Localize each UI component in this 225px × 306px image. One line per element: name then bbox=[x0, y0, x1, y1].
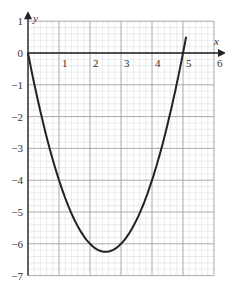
x-tick-label: 4 bbox=[155, 57, 161, 69]
y-tick-labels: 10−1−2−3−4−5−6−7 bbox=[11, 15, 23, 281]
y-tick-label: −1 bbox=[11, 79, 23, 91]
x-tick-label: 2 bbox=[93, 57, 99, 69]
y-tick-label: −6 bbox=[11, 238, 23, 250]
y-tick-label: −5 bbox=[11, 206, 23, 218]
chart: 123456 10−1−2−3−4−5−6−7 x y bbox=[0, 0, 225, 306]
y-tick-label: −2 bbox=[11, 111, 23, 123]
y-tick-label: −4 bbox=[11, 174, 23, 186]
y-tick-label: 1 bbox=[18, 15, 24, 27]
y-tick-label: −3 bbox=[11, 142, 23, 154]
x-tick-label: 5 bbox=[186, 57, 192, 69]
y-tick-label: −7 bbox=[11, 270, 23, 282]
parabola-curve bbox=[28, 37, 186, 252]
x-tick-label: 6 bbox=[217, 57, 223, 69]
y-axis-label: y bbox=[32, 12, 38, 24]
x-tick-labels: 123456 bbox=[62, 57, 223, 69]
x-tick-label: 1 bbox=[62, 57, 68, 69]
x-tick-label: 3 bbox=[124, 57, 130, 69]
y-tick-label: 0 bbox=[18, 47, 24, 59]
x-axis-label: x bbox=[213, 35, 219, 47]
axes bbox=[24, 11, 225, 275]
